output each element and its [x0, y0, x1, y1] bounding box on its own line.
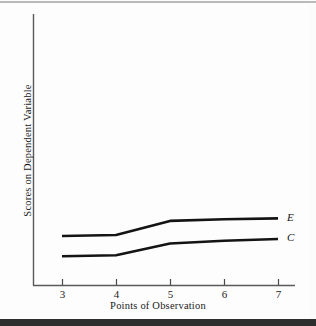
chart-figure: 3 4 5 6 7 Points of Observation Scores o… [0, 0, 316, 326]
plot-area [0, 0, 316, 326]
series-label-c: C [287, 232, 294, 243]
x-tick-label-3: 3 [53, 288, 73, 300]
x-axis-ticks [63, 279, 279, 285]
x-tick-label-7: 7 [269, 288, 289, 300]
x-tick-label-5: 5 [161, 288, 181, 300]
series-line-e [62, 218, 278, 236]
x-axis-title: Points of Observation [0, 300, 316, 311]
x-tick-label-6: 6 [215, 288, 235, 300]
x-tick-label-4: 4 [107, 288, 127, 300]
series-line-c [62, 239, 278, 256]
series-label-e: E [287, 212, 294, 223]
y-axis-title: Scores on Dependent Variable [22, 61, 33, 241]
